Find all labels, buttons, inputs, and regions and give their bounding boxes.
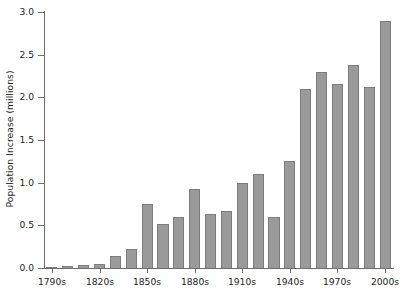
bar (380, 21, 391, 268)
bar (205, 214, 216, 268)
bar (110, 256, 121, 268)
x-axis-line (44, 268, 394, 269)
bar (253, 174, 264, 268)
x-tick (242, 269, 243, 273)
bar (268, 217, 279, 268)
x-tick (385, 269, 386, 273)
bar (94, 264, 105, 268)
bar (157, 224, 168, 268)
bar (126, 249, 137, 268)
y-tick-label: 3.0 (0, 7, 34, 16)
y-tick (38, 268, 44, 269)
x-tick (52, 269, 53, 273)
x-tick-label: 2000s (355, 277, 402, 287)
y-tick-label: 0.0 (0, 263, 34, 272)
bar (284, 161, 295, 268)
bar (348, 65, 359, 268)
bar-chart: Population Increase (millions) 0.00.51.0… (0, 0, 402, 298)
bar (221, 211, 232, 268)
plot-area (44, 12, 393, 268)
bar (364, 87, 375, 268)
bar (300, 89, 311, 268)
y-tick-label: 2.0 (0, 92, 34, 101)
bar (78, 265, 89, 268)
x-tick (195, 269, 196, 273)
bar (316, 72, 327, 268)
y-tick-label: 1.0 (0, 178, 34, 187)
bar (332, 84, 343, 268)
bar (237, 183, 248, 268)
y-tick-label: 0.5 (0, 220, 34, 229)
bar (173, 217, 184, 268)
y-tick-label: 2.5 (0, 50, 34, 59)
x-tick (147, 269, 148, 273)
bar (62, 266, 73, 268)
y-tick-label: 1.5 (0, 135, 34, 144)
x-tick (290, 269, 291, 273)
x-tick (100, 269, 101, 273)
bar (46, 267, 57, 268)
bar (142, 204, 153, 268)
x-tick (337, 269, 338, 273)
bar (189, 189, 200, 268)
